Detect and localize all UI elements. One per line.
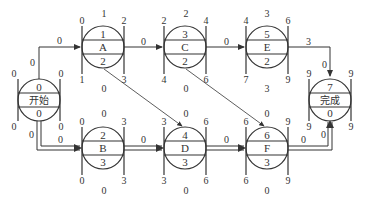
svg-text:6: 6	[264, 129, 270, 141]
svg-text:0: 0	[141, 134, 146, 145]
svg-text:0: 0	[102, 83, 107, 94]
svg-text:4: 4	[204, 15, 209, 26]
svg-text:3: 3	[122, 116, 127, 127]
node-F: 6 F 3 6 9 6 9 0 0	[244, 108, 291, 196]
svg-text:2: 2	[100, 129, 106, 141]
svg-text:9: 9	[349, 68, 354, 79]
node-B: 2 B 3 0 3 0 3 0 0	[80, 108, 127, 196]
svg-text:4: 4	[244, 15, 249, 26]
svg-text:9: 9	[286, 74, 291, 85]
svg-text:2: 2	[182, 55, 188, 67]
svg-text:7: 7	[244, 74, 249, 85]
svg-text:2: 2	[162, 15, 167, 26]
svg-text:A: A	[99, 41, 107, 53]
svg-text:0: 0	[184, 108, 189, 119]
svg-text:4: 4	[162, 74, 167, 85]
svg-text:1: 1	[102, 8, 107, 19]
svg-text:0: 0	[80, 175, 85, 186]
svg-text:0: 0	[224, 134, 229, 145]
svg-text:3: 3	[306, 36, 311, 47]
svg-text:0: 0	[59, 121, 64, 132]
svg-text:3: 3	[122, 74, 127, 85]
svg-text:E: E	[264, 41, 271, 53]
node-E: 5 E 2 4 6 7 9 3 3	[244, 8, 291, 94]
svg-text:0: 0	[102, 185, 107, 196]
network-diagram: 0 0 0 0 0 0 3 0 0 0 0	[0, 0, 365, 203]
edge-start-B: 0 0	[29, 121, 82, 152]
svg-text:2: 2	[264, 55, 270, 67]
svg-text:D: D	[181, 142, 189, 154]
svg-text:0: 0	[102, 108, 107, 119]
svg-text:3: 3	[265, 8, 270, 19]
svg-text:9: 9	[349, 121, 354, 132]
svg-text:B: B	[99, 142, 106, 154]
svg-text:0: 0	[59, 68, 64, 79]
svg-text:0: 0	[224, 36, 229, 47]
svg-text:3: 3	[265, 83, 270, 94]
edge-C-E: 0	[206, 36, 244, 47]
svg-text:0: 0	[322, 59, 327, 70]
edge-start-A: 0 0	[30, 35, 80, 79]
edge-A-C: 0	[124, 36, 162, 47]
svg-text:4: 4	[182, 129, 188, 141]
svg-text:3: 3	[264, 156, 270, 168]
svg-text:3: 3	[162, 175, 167, 186]
svg-text:2: 2	[184, 8, 189, 19]
svg-text:开始: 开始	[29, 94, 49, 106]
svg-text:0: 0	[80, 116, 85, 127]
svg-text:0: 0	[80, 15, 85, 26]
edge-B-D: 0	[124, 134, 164, 152]
svg-text:6: 6	[204, 74, 209, 85]
svg-text:0: 0	[58, 134, 63, 145]
svg-text:5: 5	[264, 28, 270, 40]
node-C: 3 C 2 2 4 4 6 2 0	[162, 8, 209, 94]
svg-text:9: 9	[286, 175, 291, 186]
svg-text:0: 0	[301, 134, 306, 145]
svg-text:3: 3	[182, 28, 188, 40]
svg-text:0: 0	[36, 81, 42, 93]
svg-text:6: 6	[204, 175, 209, 186]
svg-text:6: 6	[204, 116, 209, 127]
edge-D-F: 0	[206, 134, 246, 152]
svg-text:F: F	[264, 142, 270, 154]
svg-text:9: 9	[307, 121, 312, 132]
svg-text:0: 0	[30, 57, 35, 68]
node-A: 1 A 2 0 2 1 3 1 0	[80, 8, 127, 94]
svg-text:0: 0	[36, 107, 42, 119]
svg-text:6: 6	[244, 116, 249, 127]
svg-text:0: 0	[29, 129, 34, 140]
svg-text:0: 0	[321, 129, 326, 140]
svg-text:6: 6	[286, 15, 291, 26]
svg-text:0: 0	[12, 68, 17, 79]
svg-text:0: 0	[265, 185, 270, 196]
svg-text:3: 3	[162, 116, 167, 127]
node-D: 4 D 3 3 6 3 6 0 0	[162, 108, 209, 196]
svg-text:2: 2	[122, 15, 127, 26]
edge-A-D	[104, 69, 182, 126]
svg-text:1: 1	[100, 28, 106, 40]
svg-text:完成: 完成	[320, 94, 340, 106]
svg-text:0: 0	[184, 83, 189, 94]
svg-text:2: 2	[100, 55, 106, 67]
svg-text:0: 0	[57, 35, 62, 46]
svg-text:0: 0	[12, 121, 17, 132]
svg-text:9: 9	[286, 116, 291, 127]
svg-text:1: 1	[80, 74, 85, 85]
svg-text:3: 3	[100, 156, 106, 168]
svg-text:C: C	[181, 41, 188, 53]
svg-text:0: 0	[184, 185, 189, 196]
svg-text:7: 7	[327, 81, 333, 93]
svg-text:6: 6	[244, 175, 249, 186]
edge-C-F	[186, 69, 264, 126]
svg-text:0: 0	[265, 108, 270, 119]
svg-text:0: 0	[141, 36, 146, 47]
svg-text:3: 3	[182, 156, 188, 168]
svg-text:3: 3	[122, 175, 127, 186]
svg-text:9: 9	[307, 68, 312, 79]
svg-text:0: 0	[327, 107, 333, 119]
